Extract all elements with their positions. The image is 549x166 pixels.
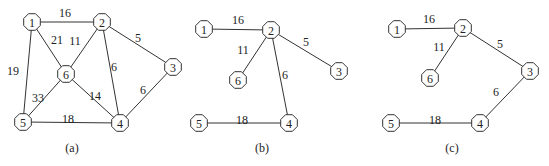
edge-weight-label: 19	[7, 64, 19, 78]
node-label: 6	[427, 72, 433, 86]
panels-layer: 16211156193314618123456(a)16115618123456…	[7, 6, 538, 155]
edge-weight-label: 21	[51, 33, 63, 47]
graph-panel-a: 16211156193314618123456(a)	[7, 6, 181, 155]
edge-weight-label: 18	[236, 113, 248, 127]
graph-panel-b: 16115618123456(b)	[191, 13, 348, 155]
graph-panel-c: 16115618123456(c)	[383, 12, 539, 155]
edge-weight-label: 5	[303, 35, 309, 49]
node-4: 4	[472, 115, 489, 132]
edge-weight-label: 16	[423, 12, 435, 26]
node-6: 6	[58, 66, 75, 83]
edge-weight-label: 14	[89, 89, 101, 103]
node-label: 3	[527, 65, 533, 79]
node-3: 3	[522, 63, 539, 80]
node-label: 4	[286, 117, 292, 131]
edge-weight-label: 18	[429, 113, 441, 127]
edge-weight-label: 5	[135, 31, 141, 45]
edge-weight-label: 18	[62, 112, 74, 126]
node-2: 2	[455, 20, 472, 37]
node-label: 3	[170, 61, 176, 75]
node-label: 4	[477, 117, 483, 131]
edge-3-4	[480, 71, 530, 123]
node-6: 6	[230, 72, 247, 89]
node-label: 2	[460, 22, 466, 36]
node-2: 2	[263, 22, 280, 39]
node-5: 5	[191, 115, 208, 132]
edge-weight-label: 11	[433, 40, 445, 54]
node-2: 2	[94, 14, 111, 31]
edge-weight-label: 16	[59, 6, 71, 20]
node-label: 1	[394, 23, 400, 37]
node-label: 3	[336, 65, 342, 79]
edge-weight-label: 6	[493, 85, 499, 99]
node-label: 1	[29, 16, 35, 30]
node-1: 1	[196, 21, 213, 38]
node-5: 5	[15, 114, 32, 131]
node-3: 3	[165, 59, 182, 76]
node-label: 5	[388, 117, 394, 131]
node-label: 6	[235, 74, 241, 88]
edge-1-6	[32, 22, 66, 74]
node-label: 5	[20, 116, 26, 130]
edge-1-5	[23, 22, 32, 122]
edge-2-6	[66, 22, 102, 74]
node-4: 4	[281, 115, 298, 132]
node-label: 2	[99, 16, 105, 30]
edge-weight-label: 6	[111, 60, 117, 74]
edge-weight-label: 5	[497, 37, 503, 51]
node-1: 1	[389, 21, 406, 38]
node-label: 4	[117, 117, 123, 131]
panel-caption: (c)	[445, 141, 458, 155]
node-6: 6	[422, 70, 439, 87]
graph-diagram: 16211156193314618123456(a)16115618123456…	[0, 0, 549, 166]
edge-1-2	[397, 28, 463, 29]
node-label: 1	[201, 23, 207, 37]
node-label: 6	[63, 68, 69, 82]
edge-weight-label: 16	[232, 13, 244, 27]
node-1: 1	[24, 14, 41, 31]
edge-weight-label: 11	[69, 34, 81, 48]
edge-weight-label: 11	[237, 43, 249, 57]
node-3: 3	[331, 63, 348, 80]
node-5: 5	[383, 115, 400, 132]
node-label: 2	[268, 24, 274, 38]
edge-1-2	[204, 29, 271, 30]
panel-caption: (a)	[65, 141, 78, 155]
edge-weight-label: 33	[32, 91, 44, 105]
edge-weight-label: 6	[282, 68, 288, 82]
edge-weight-label: 6	[140, 83, 146, 97]
edge-3-4	[120, 67, 173, 123]
node-4: 4	[112, 115, 129, 132]
node-label: 5	[196, 117, 202, 131]
edge-6-5	[23, 74, 66, 122]
panel-caption: (b)	[255, 141, 269, 155]
